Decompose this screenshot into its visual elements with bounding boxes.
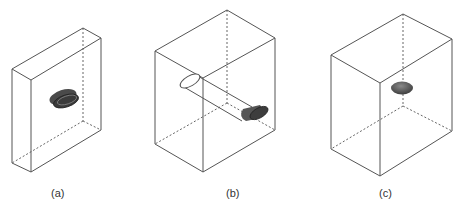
- panel-c-box: [331, 14, 452, 176]
- caption-b: (b): [226, 187, 239, 199]
- figure-canvas: [0, 0, 457, 208]
- panel-a-disk: [48, 86, 81, 111]
- caption-c: (c): [379, 187, 392, 199]
- panel-c-ellipsoid: [391, 82, 413, 95]
- caption-a: (a): [51, 187, 64, 199]
- panel-b-box: [155, 10, 275, 172]
- panel-b-cylinder: [178, 71, 270, 122]
